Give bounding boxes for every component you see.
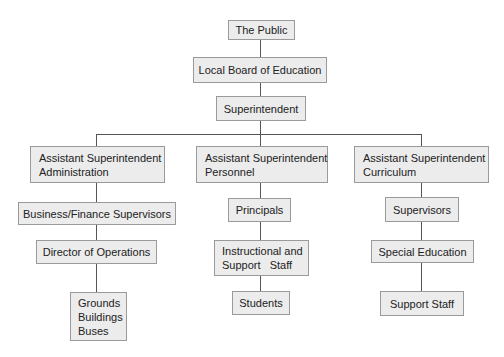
node-label-line1: Grounds [78, 296, 120, 310]
node-asst-curriculum: Assistant Superintendent Curriculum [354, 146, 489, 183]
node-label-line3: Buses [78, 324, 109, 338]
node-label-line2: Curriculum [363, 165, 416, 179]
node-director-operations: Director of Operations [36, 240, 157, 264]
node-support-staff: Support Staff [380, 291, 464, 316]
connector-admin-business [96, 183, 97, 202]
node-business-finance: Business/Finance Supervisors [18, 202, 176, 225]
node-asst-admin: Assistant Superintendent Administration [30, 146, 165, 183]
node-label: The Public [236, 23, 288, 37]
connector-curriculum-supervisors [421, 183, 422, 197]
node-label-line2: Personnel [205, 165, 255, 179]
node-label: Director of Operations [43, 245, 151, 259]
node-label: Special Education [378, 245, 466, 259]
connector-branch-curriculum [421, 134, 422, 146]
node-the-public: The Public [228, 20, 295, 40]
node-label: Supervisors [393, 203, 451, 217]
connector-personnel-principals [260, 183, 261, 198]
node-label-line1: Instructional and [222, 244, 303, 258]
node-label-line1: Assistant Superintendent [205, 151, 327, 165]
node-label-line2: Support Staff [222, 258, 292, 272]
connector-horizontal-branch [96, 134, 422, 135]
node-asst-personnel: Assistant Superintendent Personnel [196, 146, 328, 183]
node-label: Students [239, 296, 282, 310]
node-label: Local Board of Education [199, 63, 322, 77]
node-students: Students [232, 291, 290, 315]
node-label-line1: Assistant Superintendent [39, 151, 161, 165]
node-instructional-support-staff: Instructional and Support Staff [214, 240, 309, 276]
node-label: Support Staff [390, 297, 454, 311]
node-label-line2: Buildings [78, 310, 123, 324]
node-label: Principals [236, 203, 284, 217]
connector-principals-instructional [260, 222, 261, 240]
node-special-education: Special Education [371, 240, 474, 263]
connector-supervisors-special [421, 222, 422, 240]
connector-public-board [260, 40, 261, 57]
node-label: Superintendent [224, 102, 299, 116]
node-superintendent: Superintendent [216, 96, 306, 121]
connector-business-director [96, 225, 97, 240]
connector-superintendent-branch [260, 121, 261, 134]
node-grounds-buildings-buses: Grounds Buildings Buses [70, 292, 127, 341]
connector-board-superintendent [260, 83, 261, 96]
node-label: Business/Finance Supervisors [23, 207, 171, 221]
connector-instructional-students [260, 276, 261, 291]
connector-branch-personnel [260, 134, 261, 146]
node-label-line2: Administration [39, 165, 109, 179]
connector-special-support [421, 263, 422, 291]
node-principals: Principals [228, 198, 291, 222]
node-local-board: Local Board of Education [193, 57, 327, 83]
connector-branch-admin [96, 134, 97, 146]
node-label-line1: Assistant Superintendent [363, 151, 485, 165]
connector-director-grounds [96, 264, 97, 292]
node-supervisors: Supervisors [385, 197, 459, 222]
